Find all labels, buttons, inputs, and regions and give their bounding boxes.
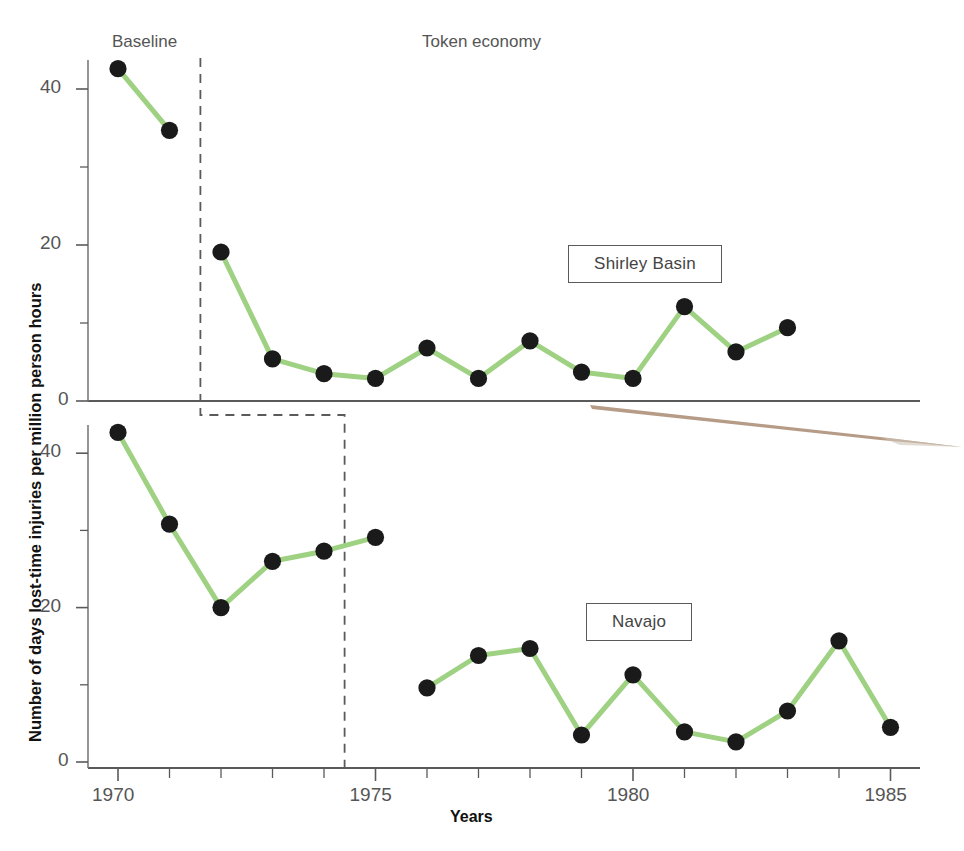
series-label-navajo: Navajo xyxy=(586,603,692,641)
y-tick-label-p0-20: 20 xyxy=(40,232,61,254)
series-line-navajo-seg0 xyxy=(118,432,376,607)
top-panel-axes xyxy=(88,60,920,401)
data-point-navajo-1985 xyxy=(882,719,899,736)
y-tick-label-p0-0: 0 xyxy=(58,388,69,410)
y-axis-title: Number of days lost-time injuries per mi… xyxy=(26,283,45,742)
y-tick-label-p1-0: 0 xyxy=(58,749,69,771)
data-point-navajo-1970 xyxy=(109,424,126,441)
y-tick-label-p0-40: 40 xyxy=(40,76,61,98)
data-point-shirley-basin-1972 xyxy=(212,243,229,260)
x-tick-label-1970: 1970 xyxy=(92,784,134,806)
data-point-shirley-basin-1970 xyxy=(109,60,126,77)
data-point-navajo-1979 xyxy=(573,726,590,743)
data-point-shirley-basin-1980 xyxy=(624,370,641,387)
data-point-shirley-basin-1981 xyxy=(676,298,693,315)
chart-canvas xyxy=(0,0,964,851)
data-series xyxy=(109,60,899,750)
data-point-navajo-1984 xyxy=(830,632,847,649)
axis-ticks xyxy=(76,89,891,781)
dashed-phase-line-bottom xyxy=(200,408,344,768)
data-point-shirley-basin-1971 xyxy=(161,122,178,139)
data-point-navajo-1978 xyxy=(521,640,538,657)
phase-label-token-economy: Token economy xyxy=(422,32,541,52)
y-tick-label-p1-20: 20 xyxy=(40,595,61,617)
data-point-shirley-basin-1973 xyxy=(264,350,281,367)
data-point-navajo-1983 xyxy=(779,702,796,719)
data-point-navajo-1973 xyxy=(264,553,281,570)
data-point-shirley-basin-1983 xyxy=(779,319,796,336)
data-point-navajo-1974 xyxy=(315,543,332,560)
data-point-navajo-1972 xyxy=(212,599,229,616)
y-tick-label-p1-40: 40 xyxy=(40,440,61,462)
data-point-shirley-basin-1979 xyxy=(573,364,590,381)
scan-artifact xyxy=(590,405,962,447)
series-line-shirley-basin-seg0 xyxy=(118,69,170,131)
data-point-shirley-basin-1978 xyxy=(521,332,538,349)
data-point-navajo-1980 xyxy=(624,666,641,683)
data-point-navajo-1975 xyxy=(367,529,384,546)
x-tick-label-1985: 1985 xyxy=(865,784,907,806)
data-point-navajo-1977 xyxy=(470,647,487,664)
x-axis-title: Years xyxy=(450,808,493,826)
data-point-navajo-1971 xyxy=(161,516,178,533)
data-point-navajo-1982 xyxy=(727,733,744,750)
data-point-navajo-1981 xyxy=(676,723,693,740)
x-tick-label-1975: 1975 xyxy=(350,784,392,806)
data-point-navajo-1976 xyxy=(418,679,435,696)
data-point-shirley-basin-1977 xyxy=(470,370,487,387)
chart-figure: Number of days lost-time injuries per mi… xyxy=(0,0,964,851)
data-point-shirley-basin-1982 xyxy=(727,343,744,360)
data-point-shirley-basin-1976 xyxy=(418,339,435,356)
data-point-shirley-basin-1975 xyxy=(367,370,384,387)
series-label-shirley-basin: Shirley Basin xyxy=(568,245,722,283)
x-tick-label-1980: 1980 xyxy=(607,784,649,806)
phase-change-lines xyxy=(200,58,344,768)
data-point-shirley-basin-1974 xyxy=(315,365,332,382)
phase-label-baseline: Baseline xyxy=(112,32,177,52)
series-line-navajo-seg1 xyxy=(427,641,891,742)
